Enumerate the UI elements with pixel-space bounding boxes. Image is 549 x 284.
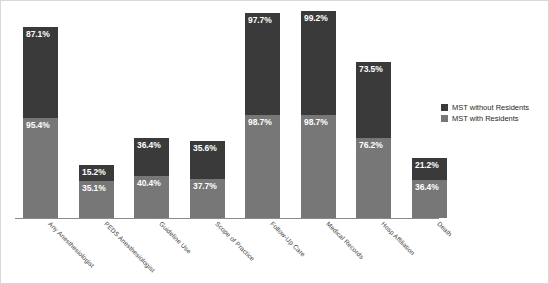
bar-value-label: 98.7%: [248, 118, 272, 127]
bar-segment-without-residents: 21.2%: [412, 158, 447, 180]
bar-segment-with-residents: 98.7%: [301, 115, 336, 218]
bar-value-label: 15.2%: [82, 168, 106, 177]
x-axis-tick-label: Guideline Use: [158, 220, 193, 255]
bar-group: 15.2%35.1%: [79, 165, 114, 218]
bar-segment-without-residents: 36.4%: [134, 138, 169, 176]
bar-segment-without-residents: 15.2%: [79, 165, 114, 181]
bar-value-label: 40.4%: [137, 179, 161, 188]
bar-group: 35.6%37.7%: [190, 141, 225, 218]
chart-legend: MST without ResidentsMST with Residents: [441, 104, 547, 125]
bar-value-label: 98.7%: [304, 118, 328, 127]
x-axis-tick-label: PEDS Anesthesiologist: [103, 220, 156, 273]
legend-item: MST without Residents: [441, 104, 547, 112]
bar-group: 73.5%76.2%: [356, 62, 391, 218]
bar-value-label: 21.2%: [415, 161, 439, 170]
bar-value-label: 36.4%: [415, 183, 439, 192]
x-axis-tick-label: Any Anesthesiologist: [47, 220, 96, 269]
bar-value-label: 76.2%: [359, 141, 383, 150]
legend-item: MST with Residents: [441, 115, 547, 123]
bar-segment-without-residents: 73.5%: [356, 62, 391, 139]
bar-segment-without-residents: 99.2%: [301, 11, 336, 115]
legend-swatch-icon: [441, 115, 448, 122]
x-axis-tick-label: Hosp Affiliation: [380, 220, 416, 256]
x-axis-line: [15, 218, 439, 219]
bar-value-label: 95.4%: [26, 121, 50, 130]
x-axis-category-labels: Any AnesthesiologistPEDS Anesthesiologis…: [15, 220, 439, 280]
x-axis-tick-label: Medical Records: [325, 220, 365, 260]
legend-label: MST with Residents: [452, 115, 519, 123]
bar-segment-with-residents: 95.4%: [23, 118, 58, 218]
bar-segment-with-residents: 37.7%: [190, 179, 225, 218]
bar-group: 87.1%95.4%: [23, 27, 58, 218]
bar-segment-with-residents: 35.1%: [79, 181, 114, 218]
bar-value-label: 35.1%: [82, 184, 106, 193]
bar-segment-with-residents: 40.4%: [134, 176, 169, 218]
bar-group: 99.2%98.7%: [301, 11, 336, 218]
x-axis-tick-label: Death: [436, 220, 454, 238]
legend-swatch-icon: [441, 104, 448, 111]
bar-group: 21.2%36.4%: [412, 158, 447, 218]
bar-value-label: 97.7%: [248, 16, 272, 25]
bar-segment-without-residents: 35.6%: [190, 141, 225, 178]
x-axis-tick-label: Follow-Up Care: [269, 220, 307, 258]
bar-value-label: 99.2%: [304, 14, 328, 23]
bar-value-label: 35.6%: [193, 144, 217, 153]
bar-group: 36.4%40.4%: [134, 138, 169, 218]
bar-segment-with-residents: 76.2%: [356, 138, 391, 218]
bar-value-label: 87.1%: [26, 30, 50, 39]
bar-segment-without-residents: 87.1%: [23, 27, 58, 118]
bar-value-label: 36.4%: [137, 141, 161, 150]
bar-segment-with-residents: 98.7%: [245, 115, 280, 218]
chart-figure: 87.1%95.4%15.2%35.1%36.4%40.4%35.6%37.7%…: [0, 0, 549, 284]
plot-area: 87.1%95.4%15.2%35.1%36.4%40.4%35.6%37.7%…: [15, 9, 439, 218]
bar-segment-without-residents: 97.7%: [245, 13, 280, 115]
bar-value-label: 37.7%: [193, 182, 217, 191]
bar-group: 97.7%98.7%: [245, 13, 280, 218]
legend-label: MST without Residents: [452, 104, 529, 112]
x-axis-tick-label: Scope of Practice: [214, 220, 256, 262]
bar-value-label: 73.5%: [359, 65, 383, 74]
bar-segment-with-residents: 36.4%: [412, 180, 447, 218]
